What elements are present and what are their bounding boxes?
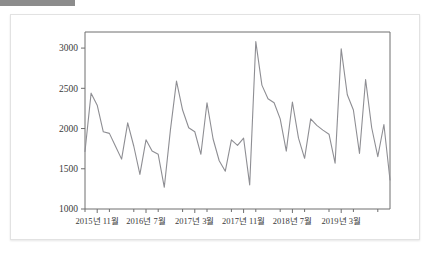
y-tick-label: 2000	[59, 124, 78, 134]
x-tick-label: 2016년 7월	[126, 216, 165, 226]
x-axis-labels: 2015년 11월2016년 7월2017년 3월2017년 11월2018년 …	[76, 216, 361, 226]
chart-svg: 10001500200025003000 2015년 11월2016년 7월20…	[11, 15, 421, 241]
x-tick-label: 2017년 11월	[222, 216, 265, 226]
y-tick-label: 2500	[59, 84, 78, 94]
x-tick-label: 2019년 3월	[322, 216, 361, 226]
series-line	[85, 42, 390, 188]
plot-frame	[85, 32, 390, 209]
chart-card: 10001500200025003000 2015년 11월2016년 7월20…	[10, 14, 420, 240]
y-tick-label: 1000	[59, 204, 78, 214]
x-axis-ticks	[85, 209, 378, 213]
window-title-bar	[0, 0, 75, 6]
y-axis-ticks	[81, 48, 85, 209]
x-tick-label: 2015년 11월	[76, 216, 119, 226]
y-tick-label: 3000	[59, 43, 78, 53]
x-tick-label: 2018년 7월	[273, 216, 312, 226]
x-tick-label: 2017년 3월	[175, 216, 214, 226]
line-chart: 10001500200025003000 2015년 11월2016년 7월20…	[11, 15, 421, 241]
y-axis-labels: 10001500200025003000	[59, 43, 78, 214]
y-tick-label: 1500	[59, 164, 78, 174]
